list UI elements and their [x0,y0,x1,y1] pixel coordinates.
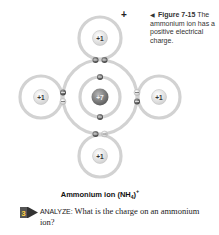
nitrogen-nucleus: +7 [92,89,109,106]
ion-label-name: Ammonium ion (NH [61,190,131,199]
svg-text:+7: +7 [96,94,104,101]
ion-label-superscript: + [136,188,139,194]
step-arrow-icon: 3 [20,207,38,218]
svg-text:+1: +1 [96,153,104,160]
hydrogen-nucleus-bottom: +1 [93,149,108,164]
svg-text:3: 3 [21,209,26,218]
left-pointer-icon: ◀ [150,12,155,18]
figure-caption: ◀ Figure 7-15 The ammonium ion has a pos… [150,11,219,45]
hydrogen-nucleus-left: +1 [34,90,49,105]
svg-text:+1: +1 [96,35,104,42]
analyze-keyword: ANALYZE: [40,208,73,215]
ion-label: Ammonium ion (NH4)+ [0,188,200,200]
figure-number: Figure 7-15 [158,11,195,18]
hydrogen-nucleus-right: +1 [152,90,167,105]
svg-text:+1: +1 [155,94,163,101]
ion-charge-symbol: + [121,9,127,20]
svg-text:+1: +1 [37,94,45,101]
analyze-text: ANALYZE: What is the charge on an ammoni… [40,206,215,227]
hydrogen-nucleus-top: +1 [93,31,108,46]
